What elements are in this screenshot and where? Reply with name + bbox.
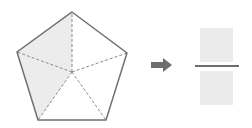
fraction-bar xyxy=(195,65,239,67)
fraction-numerator-box[interactable] xyxy=(200,28,233,62)
diagram-canvas xyxy=(0,0,252,128)
fraction-denominator-box[interactable] xyxy=(200,71,233,105)
arrow-right-icon xyxy=(151,58,172,72)
